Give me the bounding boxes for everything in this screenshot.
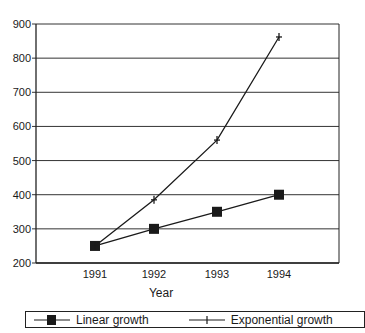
legend: Linear growth Exponential growth — [25, 311, 365, 328]
y-tick-label: 600 — [13, 120, 31, 132]
legend-item-exponential: Exponential growth — [189, 313, 333, 327]
y-tick-label: 900 — [13, 18, 31, 30]
series-line — [95, 37, 279, 246]
series-line — [95, 195, 279, 246]
y-tick-label: 700 — [13, 86, 31, 98]
gridlines — [36, 24, 339, 263]
square-marker-icon — [212, 207, 222, 217]
x-tick-label: 1991 — [83, 268, 107, 280]
x-tick-label: 1994 — [267, 268, 291, 280]
square-marker-icon — [149, 224, 159, 234]
y-tick-label: 300 — [13, 223, 31, 235]
legend-item-linear: Linear growth — [34, 313, 149, 327]
y-tick-label: 800 — [13, 52, 31, 64]
series-lines — [90, 33, 284, 251]
square-marker-icon — [274, 190, 284, 200]
axes: 2003004005006007008009001991199219931994 — [13, 18, 339, 280]
x-tick-label: 1993 — [205, 268, 229, 280]
legend-label-exponential: Exponential growth — [231, 313, 333, 327]
y-tick-label: 500 — [13, 155, 31, 167]
plus-marker-icon — [189, 315, 225, 325]
x-axis-label: Year — [149, 286, 173, 300]
legend-label-linear: Linear growth — [76, 313, 149, 327]
x-tick-label: 1992 — [142, 268, 166, 280]
y-tick-label: 200 — [13, 257, 31, 269]
y-tick-label: 400 — [13, 189, 31, 201]
square-marker-icon — [34, 315, 70, 325]
